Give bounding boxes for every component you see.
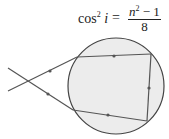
arrow-icon (112, 54, 115, 57)
outgoing-ray (8, 68, 73, 110)
arrow-icon (46, 92, 49, 95)
arrow-icon (147, 86, 150, 89)
arrow-icon (106, 113, 109, 116)
arrow-icon (48, 69, 51, 72)
ray-diagram (0, 0, 169, 139)
